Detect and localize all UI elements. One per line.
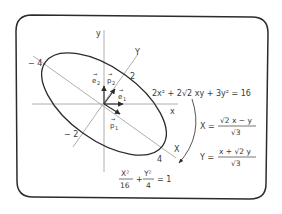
X-axis-label: X: [174, 145, 180, 154]
transform-arrow: [179, 99, 196, 163]
svg-text:Y²: Y²: [143, 169, 152, 178]
label-e1: e 1 →: [118, 87, 126, 102]
label-p1: p 1 →: [110, 116, 118, 131]
y-axis-label: y: [96, 29, 101, 38]
tick-Y-pos: 2: [130, 72, 135, 81]
svg-text:1: 1: [115, 125, 118, 131]
svg-text:√3: √3: [231, 159, 241, 168]
svg-text:e: e: [92, 77, 96, 85]
x-axis-label: x: [170, 107, 175, 116]
vector-p2: [104, 89, 115, 104]
original-equation: 2x² + 2√2 xy + 3y² = 16: [152, 89, 251, 98]
svg-text:→: →: [111, 116, 115, 122]
svg-text:→: →: [108, 71, 112, 77]
svg-text:4: 4: [146, 181, 151, 190]
svg-text:2: 2: [97, 80, 100, 86]
svg-text:1: 1: [123, 96, 126, 102]
svg-text:e: e: [118, 93, 122, 101]
Y-transform-formula: Y = x + √2 y √3: [199, 147, 256, 168]
tick-Y-neg: − 2: [64, 130, 78, 139]
svg-text:→: →: [119, 87, 123, 93]
svg-text:16: 16: [120, 181, 130, 190]
svg-text:2: 2: [112, 80, 115, 86]
svg-text:√2 x − y: √2 x − y: [220, 116, 252, 125]
Y-axis-label: Y: [134, 48, 140, 57]
svg-text:Y =: Y =: [199, 153, 214, 162]
tick-X-neg: − 4: [28, 59, 42, 68]
svg-text:→: →: [93, 71, 97, 77]
label-p2: p 2 →: [107, 71, 115, 86]
ellipse-diagram: y x X Y − 4 4 2 − 2 e 2 → p 2 → e 1 → p …: [0, 0, 282, 214]
svg-text:√3: √3: [231, 128, 241, 137]
svg-text:X =: X =: [200, 122, 215, 131]
svg-text:X²: X²: [121, 169, 129, 178]
label-e2: e 2 →: [92, 71, 100, 86]
X-transform-formula: X = √2 x − y √3: [200, 116, 256, 137]
reduced-equation: X² 16 + Y² 4 = 1: [119, 169, 171, 190]
svg-text:+: +: [136, 175, 143, 184]
svg-text:x + √2 y: x + √2 y: [219, 147, 251, 156]
frame-border: [16, 15, 268, 199]
tick-X-pos: 4: [157, 155, 162, 164]
X-axis-rotated: [33, 56, 176, 158]
svg-text:= 1: = 1: [157, 175, 171, 184]
